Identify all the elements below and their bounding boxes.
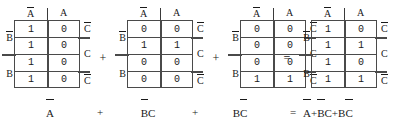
kmap-3-cell-2-0: 0 xyxy=(241,54,273,71)
kmap-2-col-header-0: A xyxy=(127,7,160,19)
kmap-2-cell-0-0: 0 xyxy=(128,21,160,38)
kmap-1-cell-2-1: 0 xyxy=(48,54,80,71)
kmap-1-cell-0-1: 0 xyxy=(48,21,80,38)
kmap-2-whisker-left-middle xyxy=(115,54,129,56)
kmap-4-row-label-0: B xyxy=(297,31,310,43)
kmap-1-whisker-right-upper xyxy=(78,37,90,39)
kmap-1-whisker-right-lower xyxy=(78,71,90,73)
kmap-4-col-header-1: A xyxy=(344,7,377,18)
kmap-3-header-divider-tick xyxy=(273,8,274,20)
kmap-4-cell-1-1: 1 xyxy=(345,37,377,54)
kmap-1-row-label-0: B xyxy=(0,31,13,43)
kmap-2-whisker-right-upper xyxy=(191,37,203,39)
kmap-2-cell-2-1: 0 xyxy=(161,54,193,71)
kmap-1-header-divider-tick xyxy=(47,8,48,20)
kmap-2-column-headers: A A xyxy=(127,7,193,20)
equation-plus-1: + xyxy=(85,99,115,125)
equation-equals: = xyxy=(283,99,303,125)
kmap-4-grid: 1 0 1 1 1 0 1 1 xyxy=(311,20,377,88)
kmap-2-row-label-0: B xyxy=(113,31,126,43)
kmap-2-cell-3-0: 0 xyxy=(128,71,160,88)
kmap-3-whisker-left-middle xyxy=(228,54,242,56)
kmap-2-right-label-1: C xyxy=(197,48,211,59)
equation-term-2: BC xyxy=(123,99,173,126)
kmap-2-right-label-2: C xyxy=(197,74,211,86)
kmap-1: A A B B 1 0 1 0 1 0 1 0 C C C xyxy=(0,7,80,20)
kmap-1-cell-2-0: 1 xyxy=(15,54,47,71)
kmap-2-grid: 0 0 1 1 0 0 0 0 xyxy=(127,20,193,88)
kmap-2-cell-2-0: 0 xyxy=(128,54,160,71)
equation-row: A + BC + BC = A+BC+BC xyxy=(0,99,393,125)
kmap-1-row-label-1: B xyxy=(0,68,13,79)
kmap-3-row-label-0: B xyxy=(226,31,239,43)
kmap-2-col-header-1: A xyxy=(160,7,193,18)
kmap-1-column-headers: A A xyxy=(14,7,80,20)
kmap-2: A A B B 0 0 1 1 0 0 0 0 C C C xyxy=(113,7,193,20)
kmap-4-header-divider-tick xyxy=(344,8,345,20)
equation-term-1: A xyxy=(20,99,80,126)
kmap-4-cell-1-0: 1 xyxy=(312,37,344,54)
kmap-4-cell-3-1: 1 xyxy=(345,71,377,88)
kmap-4-column-headers: A A xyxy=(311,7,377,20)
kmap-4-whisker-right-lower xyxy=(375,71,387,73)
kmap-4-cell-0-1: 0 xyxy=(345,21,377,38)
kmap-2-header-divider-tick xyxy=(160,8,161,20)
kmap-4-col-header-0: A xyxy=(311,7,344,19)
kmap-1-cell-3-1: 0 xyxy=(48,71,80,88)
kmap-1-cell-3-0: 1 xyxy=(15,71,47,88)
kmap-figure: A A B B 1 0 1 0 1 0 1 0 C C C + A xyxy=(0,0,393,131)
kmap-4-cell-2-1: 0 xyxy=(345,54,377,71)
kmap-1-cell-1-0: 1 xyxy=(15,37,47,54)
operator-plus-2: + xyxy=(210,52,222,64)
kmap-3-cell-3-0: 1 xyxy=(241,71,273,88)
kmap-4-cell-2-0: 1 xyxy=(312,54,344,71)
kmap-1-right-label-0: C xyxy=(84,22,98,34)
kmap-1-right-label-2: C xyxy=(84,74,98,86)
kmap-1-cell-0-0: 1 xyxy=(15,21,47,38)
kmap-1-col-header-1: A xyxy=(47,7,80,18)
kmap-4-cell-0-0: 1 xyxy=(312,21,344,38)
kmap-1-col-header-0: A xyxy=(14,7,47,19)
kmap-1-right-label-1: C xyxy=(84,48,98,59)
kmap-3-cell-0-0: 0 xyxy=(241,21,273,38)
kmap-1-grid: 1 0 1 0 1 0 1 0 xyxy=(14,20,80,88)
kmap-4-right-label-1: C xyxy=(381,48,393,59)
equation-term-3: BC xyxy=(215,99,265,126)
operator-equals: = xyxy=(281,52,293,64)
kmap-4-cell-3-0: 1 xyxy=(312,71,344,88)
equation-plus-2: + xyxy=(180,99,210,125)
kmap-2-row-label-1: B xyxy=(113,68,126,79)
kmap-2-cell-1-1: 1 xyxy=(161,37,193,54)
kmap-2-right-label-0: C xyxy=(197,22,211,34)
kmap-2-cell-3-1: 0 xyxy=(161,71,193,88)
kmap-4-whisker-left-middle xyxy=(299,54,313,56)
kmap-3-row-label-1: B xyxy=(226,68,239,79)
kmap-2-whisker-right-lower xyxy=(191,71,203,73)
kmap-4-row-label-1: B xyxy=(297,68,310,79)
kmap-4: A A B B 1 0 1 1 1 0 1 1 C C C xyxy=(297,7,377,20)
kmap-3-cell-1-0: 0 xyxy=(241,37,273,54)
operator-plus-1: + xyxy=(97,52,109,64)
kmap-4-right-label-2: C xyxy=(381,74,393,86)
kmap-1-cell-1-1: 0 xyxy=(48,37,80,54)
kmap-3-col-header-0: A xyxy=(240,7,273,19)
kmap-4-whisker-right-upper xyxy=(375,37,387,39)
kmap-3: A A B B 0 0 0 0 0 0 1 1 C C C xyxy=(226,7,306,20)
kmap-1-whisker-left-middle xyxy=(2,54,16,56)
kmap-4-right-label-0: C xyxy=(381,22,393,34)
kmap-2-cell-1-0: 1 xyxy=(128,37,160,54)
equation-result: A+BC+BC xyxy=(303,99,389,126)
kmap-2-cell-0-1: 0 xyxy=(161,21,193,38)
